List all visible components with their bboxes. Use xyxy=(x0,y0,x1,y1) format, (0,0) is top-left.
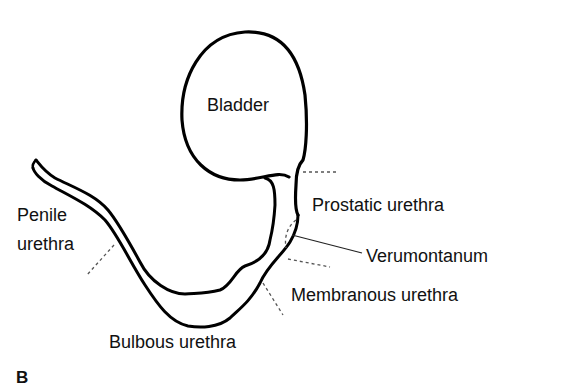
label-verumontanum: Verumontanum xyxy=(366,245,488,267)
panel-letter: B xyxy=(16,368,28,388)
label-penile-urethra-line1: Penile xyxy=(17,204,67,226)
boundary-membranous-bulbous xyxy=(263,283,283,315)
label-prostatic-urethra: Prostatic urethra xyxy=(312,194,444,216)
label-membranous-urethra: Membranous urethra xyxy=(291,284,458,306)
verumontanum-leader xyxy=(292,235,362,253)
label-penile-urethra-line2: urethra xyxy=(17,233,74,255)
penile-tip xyxy=(33,160,36,168)
bladder-outline xyxy=(182,32,307,215)
label-bladder: Bladder xyxy=(207,94,269,116)
urethra-diagram xyxy=(0,0,566,389)
boundary-prostatic-membranous xyxy=(288,259,330,267)
boundary-bulbous-penile xyxy=(86,245,114,276)
label-bulbous-urethra: Bulbous urethra xyxy=(109,331,236,353)
